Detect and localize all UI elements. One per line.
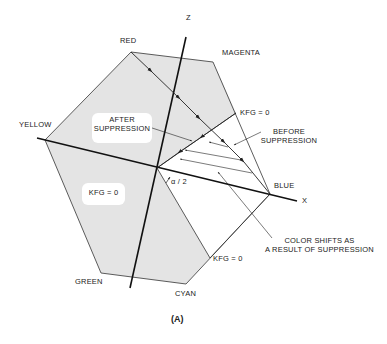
angle-label: α / 2 <box>171 178 187 187</box>
after-suppression-label: AFTER SUPPRESSION <box>92 116 152 133</box>
shifts-pointer <box>218 172 272 238</box>
color-shifts-label: COLOR SHIFTS AS A RESULT OF SUPPRESSION <box>262 237 377 254</box>
kfg-label-top: KFG = 0 <box>240 109 270 118</box>
vertex-label-yellow: YELLOW <box>19 121 51 130</box>
blue-to-kfg-bottom <box>210 194 270 258</box>
vertex-label-green: GREEN <box>75 278 103 287</box>
z-axis-label: Z <box>186 14 191 23</box>
vertex-label-red: RED <box>120 37 136 46</box>
vertex-label-cyan: CYAN <box>175 290 196 299</box>
kfg-label-bottom: KFG = 0 <box>213 255 243 264</box>
before-suppression-label: BEFORE SUPPRESSION <box>254 128 324 145</box>
kfg-label-left: KFG = 0 <box>82 189 125 198</box>
vertex-label-magenta: MAGENTA <box>222 49 260 58</box>
suppressed-region-lower <box>45 140 210 284</box>
figure-caption: (A) <box>171 314 184 324</box>
vertex-label-blue: BLUE <box>274 182 294 191</box>
x-axis-label: X <box>302 197 307 206</box>
